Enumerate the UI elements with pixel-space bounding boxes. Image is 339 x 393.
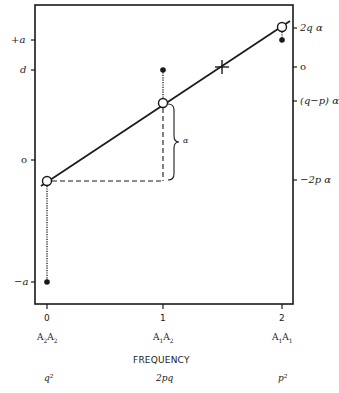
right-label-q-minus-p-alpha: (q−p) α [300,96,339,106]
right-label-zero: o [300,62,306,72]
genotype-a1a1: A1A1 [272,333,293,344]
x-tick-1: 1 [160,314,166,323]
x-tick-0: 0 [44,314,50,323]
left-label-plus-a: +a [11,35,25,45]
brace-alpha-label: α [183,137,188,145]
x-tick-2: 2 [279,314,285,323]
genotypic-value-points [44,37,285,285]
genotype-a2a2: A2A2 [37,333,58,344]
dashed-guides [52,108,163,181]
frequency-p-squared: p² [278,373,287,383]
left-label-d: d [20,65,26,75]
frequency-title: FREQUENCY [133,355,190,365]
frequency-q-squared: q² [44,373,53,383]
right-label-2q-alpha: 2q α [300,23,323,33]
right-label-minus-2p-alpha: −2p α [300,175,331,185]
left-label-zero: o [21,155,27,165]
genotype-a1a2: A1A2 [153,333,174,344]
plot-frame [35,5,293,304]
alpha-brace [168,104,179,180]
left-label-minus-a: −a [14,277,28,287]
frequency-2pq: 2pq [156,373,173,383]
